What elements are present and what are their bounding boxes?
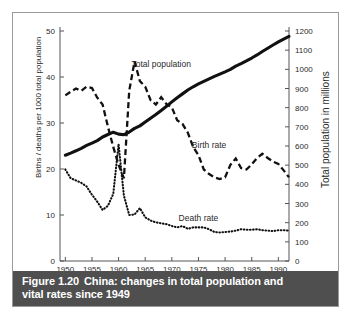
left-tick-label: 20 xyxy=(46,165,55,174)
figure-caption: Figure 1.20China: changes in total popul… xyxy=(13,271,338,306)
left-tick-label: 10 xyxy=(46,211,55,220)
right-tick-label: 900 xyxy=(295,85,309,94)
right-tick-label: 800 xyxy=(295,104,309,113)
right-tick-label: 300 xyxy=(295,200,309,209)
chart-series-labels: Total populationBirth rateDeath rate xyxy=(131,59,226,223)
caption-line-1: Figure 1.20China: changes in total popul… xyxy=(22,275,330,288)
right-tick-label: 1100 xyxy=(295,46,313,55)
series-line-total-population xyxy=(65,36,289,155)
series-label-birth-rate: Birth rate xyxy=(192,140,227,150)
right-tick-label: 200 xyxy=(295,219,309,228)
right-tick-label: 600 xyxy=(295,142,309,151)
right-axis-title: Total population in millions xyxy=(320,71,331,188)
right-tick-label: 1000 xyxy=(295,65,313,74)
left-tick-label: 30 xyxy=(46,119,55,128)
figure-number: Figure 1.20 xyxy=(22,275,79,287)
chart-plot-area: 0102030405001002003004005006007008009001… xyxy=(13,13,338,271)
china-population-vital-rates-chart: 0102030405001002003004005006007008009001… xyxy=(13,13,338,271)
right-tick-label: 500 xyxy=(295,161,309,170)
right-tick-label: 400 xyxy=(295,180,309,189)
right-tick-label: 1200 xyxy=(295,27,313,36)
right-tick-label: 100 xyxy=(295,238,309,247)
left-tick-label: 50 xyxy=(46,27,55,36)
right-tick-label: 700 xyxy=(295,123,309,132)
left-axis-title: Births / deaths per 1000 total populatio… xyxy=(34,37,43,178)
series-line-birth-rate xyxy=(65,61,289,179)
left-tick-label: 40 xyxy=(46,73,55,82)
caption-line-2: vital rates since 1949 xyxy=(22,288,330,301)
left-tick-label: 0 xyxy=(51,257,56,266)
series-label-death-rate: Death rate xyxy=(179,213,219,223)
right-tick-label: 0 xyxy=(295,257,300,266)
figure-container: 0102030405001002003004005006007008009001… xyxy=(12,12,339,307)
series-line-death-rate xyxy=(65,144,289,232)
caption-text-1: China: changes in total population and xyxy=(84,275,283,287)
series-label-total-population: Total population xyxy=(131,59,191,69)
